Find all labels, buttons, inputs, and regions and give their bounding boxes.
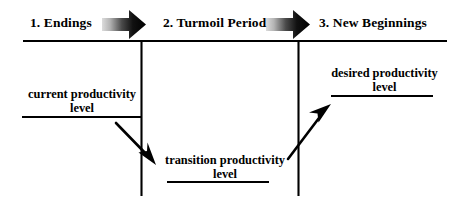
annotation-desired-productivity-line-1: desired productivity	[322, 67, 447, 81]
phase-label-new-beginnings: 3. New Beginnings	[319, 15, 427, 30]
right-arrow-icon-1	[102, 10, 146, 39]
annotation-desired-productivity-line-2: level	[322, 81, 447, 95]
annotation-transition-productivity-level: transition productivity level	[158, 154, 292, 181]
phase-label-turmoil: 2. Turmoil Period	[163, 15, 266, 30]
up-right-arrow-icon	[288, 104, 331, 159]
phase-label-endings: 1. Endings	[30, 15, 92, 30]
annotation-transition-productivity-line-2: level	[158, 168, 292, 182]
right-arrow-icon-2	[266, 10, 310, 39]
down-right-arrow-icon	[116, 123, 156, 165]
annotation-transition-productivity-line-1: transition productivity	[158, 154, 292, 168]
annotation-current-productivity-line-1: current productivity	[20, 88, 144, 102]
annotation-desired-productivity-level: desired productivity level	[322, 67, 447, 94]
annotation-current-productivity-level: current productivity level	[20, 88, 144, 115]
annotation-current-productivity-line-2: level	[20, 102, 144, 116]
transition-productivity-diagram: 1. Endings 2. Turmoil Period 3. New Begi…	[0, 0, 468, 207]
